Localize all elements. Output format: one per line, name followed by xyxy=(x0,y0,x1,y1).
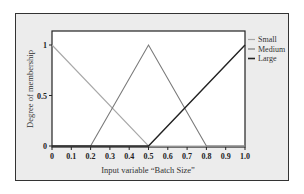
plot-area xyxy=(52,31,245,147)
y-tick-label: 0.5 xyxy=(37,92,47,101)
x-tick-label: 0.7 xyxy=(182,152,192,161)
legend-label-small: Small xyxy=(258,35,277,44)
y-axis-label: Degree of membership xyxy=(25,50,35,128)
x-tick-label: 0.1 xyxy=(66,152,76,161)
legend-label-large: Large xyxy=(258,54,277,63)
x-axis-ticks: 00.10.20.30.40.50.60.70.80.91.0 xyxy=(50,147,250,161)
x-tick-label: 0.2 xyxy=(86,152,96,161)
x-tick-label: 0.8 xyxy=(201,152,211,161)
x-tick-label: 0.6 xyxy=(163,152,173,161)
x-tick-label: 0.3 xyxy=(105,152,115,161)
x-tick-label: 0.9 xyxy=(221,152,231,161)
x-tick-label: 1.0 xyxy=(240,152,250,161)
x-tick-label: 0.5 xyxy=(144,152,154,161)
legend: SmallMediumLarge xyxy=(248,35,286,63)
y-tick-label: 1 xyxy=(43,41,47,50)
x-tick-label: 0.4 xyxy=(124,152,134,161)
y-tick-label: 0 xyxy=(43,142,47,151)
membership-chart: 00.10.20.30.40.50.60.70.80.91.0 00.51 In… xyxy=(0,0,304,194)
x-axis-label: Input variable “Batch Size” xyxy=(101,165,195,175)
legend-label-medium: Medium xyxy=(258,45,286,54)
x-tick-label: 0 xyxy=(50,152,54,161)
y-axis-ticks: 00.51 xyxy=(37,41,52,151)
